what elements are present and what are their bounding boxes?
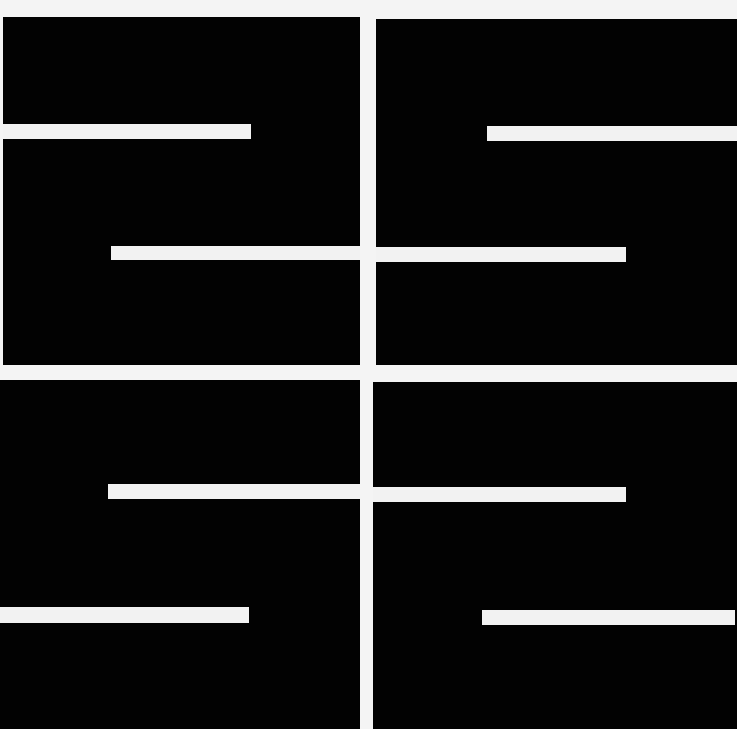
panel-bottom-right [373, 382, 737, 729]
panel-top-left [3, 17, 360, 365]
white-bar [3, 124, 251, 139]
panel-top-right [376, 19, 737, 365]
panel-bottom-left [0, 380, 360, 729]
white-bar [376, 247, 626, 262]
white-bar [0, 607, 249, 623]
white-bar [482, 610, 735, 625]
white-bar [373, 487, 626, 502]
white-bar [111, 246, 360, 260]
white-bar [108, 484, 360, 499]
white-bar [487, 126, 737, 141]
